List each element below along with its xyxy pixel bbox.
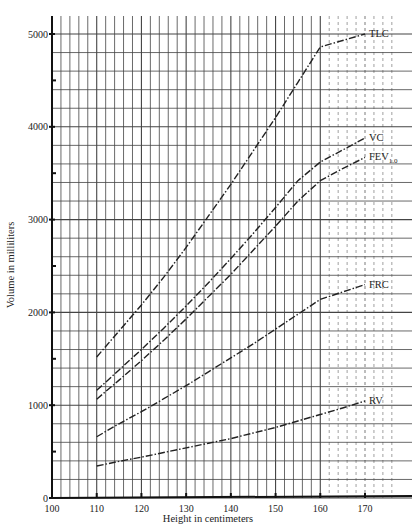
y-tick-label: 5000 bbox=[28, 29, 48, 40]
x-tick-label: 160 bbox=[313, 503, 328, 514]
x-tick-label: 170 bbox=[358, 503, 373, 514]
x-axis-label: Height in centimeters bbox=[163, 513, 253, 524]
curve-label: TLC bbox=[369, 28, 389, 39]
x-tick-label: 120 bbox=[134, 503, 149, 514]
curve-label: VC bbox=[369, 132, 384, 143]
x-tick-label: 100 bbox=[45, 503, 60, 514]
curve-label: FEV1.0 bbox=[369, 151, 398, 165]
axes: 0100020003000400050001001101201301401501… bbox=[28, 16, 412, 514]
y-tick-label: 1000 bbox=[28, 400, 48, 411]
x-tick-label: 150 bbox=[268, 503, 283, 514]
y-tick-label: 2000 bbox=[28, 307, 48, 318]
lung-volume-chart: 0100020003000400050001001101201301401501… bbox=[0, 0, 417, 531]
y-tick-label: 0 bbox=[43, 493, 48, 504]
x-tick-label: 110 bbox=[89, 503, 104, 514]
curve-label: RV bbox=[369, 395, 383, 406]
y-tick-label: 4000 bbox=[28, 121, 48, 132]
y-tick-label: 3000 bbox=[28, 214, 48, 225]
y-axis-label: Volume in milliliters bbox=[5, 222, 16, 309]
curve-label: FRC bbox=[369, 279, 389, 290]
